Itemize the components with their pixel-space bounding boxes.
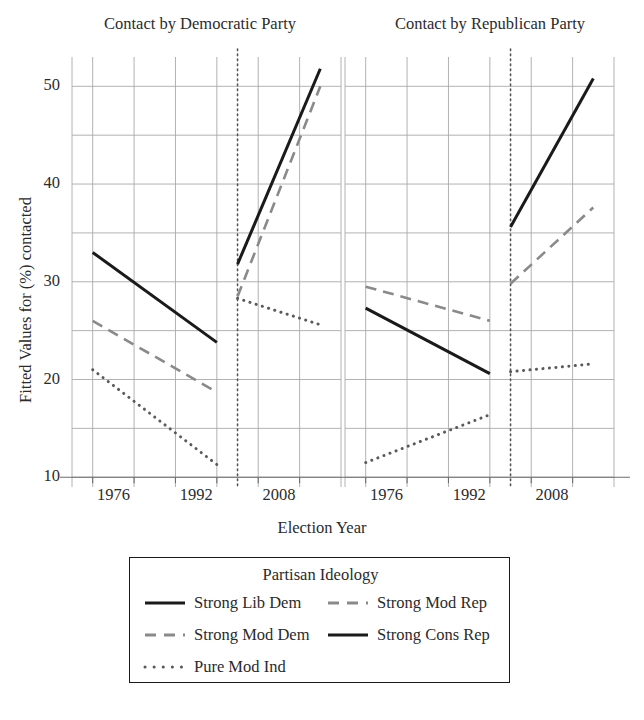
x-tick-label: 1976 <box>78 485 148 505</box>
legend-item-strong-mod-rep[interactable]: Strong Mod Rep <box>326 592 487 614</box>
y-axis-label: Fitted Values for (%) contacted <box>16 150 36 450</box>
chart-figure: Contact by Democratic Party Contact by R… <box>0 0 644 720</box>
x-tick-label: 1992 <box>434 485 504 505</box>
legend-item-strong-mod-dem[interactable]: Strong Mod Dem <box>143 624 310 646</box>
legend-label: Strong Lib Dem <box>194 593 301 613</box>
legend-label: Strong Mod Rep <box>377 593 487 613</box>
x-tick-label: 2008 <box>244 485 314 505</box>
legend-item-strong-lib-dem[interactable]: Strong Lib Dem <box>143 592 301 614</box>
legend-item-strong-cons-rep[interactable]: Strong Cons Rep <box>326 624 490 646</box>
x-tick-label: 1976 <box>351 485 421 505</box>
legend-item-pure-mod-ind[interactable]: Pure Mod Ind <box>143 656 286 678</box>
legend-label: Strong Cons Rep <box>377 625 490 645</box>
legend-swatch-solid-icon <box>326 628 370 642</box>
axis-lines <box>60 57 630 487</box>
legend-label: Strong Mod Dem <box>194 625 310 645</box>
y-tick-label: 10 <box>26 466 60 486</box>
legend-box: Partisan Ideology Strong Lib Dem Strong … <box>129 557 510 683</box>
period-break-lines <box>238 49 511 487</box>
x-axis-label: Election Year <box>172 518 472 538</box>
legend-swatch-dashed-icon <box>143 628 187 642</box>
data-series-group <box>93 69 594 465</box>
legend-label: Pure Mod Ind <box>194 657 286 677</box>
x-tick-label: 2008 <box>517 485 587 505</box>
plot-canvas <box>0 0 644 500</box>
legend-title: Partisan Ideology <box>130 565 511 585</box>
y-tick-label: 50 <box>26 75 60 95</box>
legend-swatch-solid-icon <box>143 596 187 610</box>
legend-swatch-dashed-icon <box>326 596 370 610</box>
legend-swatch-dotted-icon <box>143 660 187 674</box>
x-tick-label: 1992 <box>161 485 231 505</box>
gridlines <box>72 57 614 487</box>
